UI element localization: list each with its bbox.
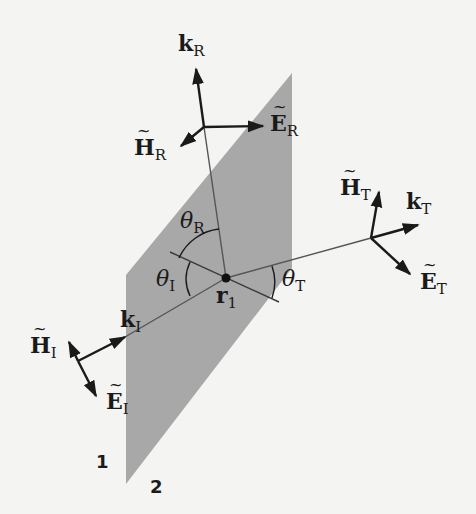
diagram-graphics [0, 0, 476, 514]
label-h-i: HI [30, 334, 57, 361]
label-h-t: HT [340, 176, 371, 203]
k-r-arrow [196, 69, 204, 127]
k-t-arrow [371, 225, 418, 238]
diagram-canvas: kR ER HR θR θI θT r1 HT kT ET kI HI EI 1… [0, 0, 476, 514]
label-medium-1: 1 [96, 453, 109, 471]
label-theta-t: θT [282, 268, 305, 294]
label-e-r: ER [270, 112, 298, 139]
label-r1: r1 [216, 284, 237, 311]
h-r-arrow [181, 127, 204, 146]
k-i-arrow [78, 337, 125, 361]
label-e-t: ET [420, 270, 447, 297]
label-h-r: HR [134, 136, 166, 163]
label-theta-r: θR [180, 210, 205, 236]
h-t-arrow [371, 192, 379, 238]
label-medium-2: 2 [150, 478, 163, 496]
label-k-t: kT [406, 190, 431, 217]
label-k-r: kR [178, 32, 205, 59]
h-i-arrow [69, 342, 78, 361]
label-theta-i: θI [156, 268, 175, 294]
e-t-arrow [371, 238, 410, 274]
e-r-arrow [204, 126, 263, 127]
e-i-arrow [78, 361, 96, 396]
label-k-i: kI [120, 308, 141, 335]
label-e-i: EI [106, 390, 129, 417]
